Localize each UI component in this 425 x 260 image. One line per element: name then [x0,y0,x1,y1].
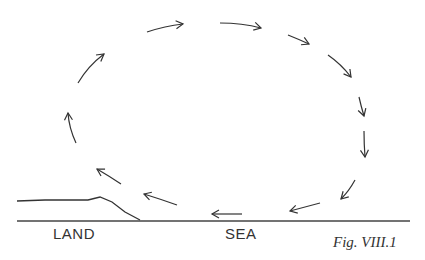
wind-arrow [288,35,309,44]
wind-arrow [328,55,351,77]
figure-caption: Fig. VIII.1 [333,234,397,251]
wind-arrow [78,54,104,83]
circulation-arrows [68,23,365,214]
wind-arrow [359,97,364,116]
sea-label: SEA [225,225,257,242]
wind-arrow [220,23,261,28]
wind-arrow [341,180,355,199]
land-label: LAND [53,225,95,242]
wind-arrow [290,203,320,211]
wind-arrow [144,194,177,205]
wind-arrow [68,113,76,143]
wind-arrow [147,24,183,32]
land-profile [17,197,140,220]
sea-breeze-diagram: LAND SEA Fig. VIII.1 [0,0,425,260]
circulation-drawing [0,0,425,260]
wind-arrow [97,169,121,184]
wind-arrow [364,131,365,157]
